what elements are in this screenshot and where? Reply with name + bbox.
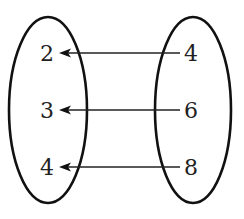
right-set-labels: 4 6 8	[184, 41, 198, 180]
left-element: 4	[40, 155, 54, 180]
left-element: 2	[40, 41, 54, 66]
left-element: 3	[40, 98, 54, 123]
mapping-diagram: 2 3 4 4 6 8	[0, 0, 244, 219]
right-element: 4	[184, 41, 198, 66]
right-element: 8	[184, 155, 198, 180]
mapping-arrow	[59, 106, 180, 115]
mapping-arrows	[59, 49, 180, 172]
left-set-labels: 2 3 4	[40, 41, 54, 180]
right-element: 6	[184, 98, 198, 123]
